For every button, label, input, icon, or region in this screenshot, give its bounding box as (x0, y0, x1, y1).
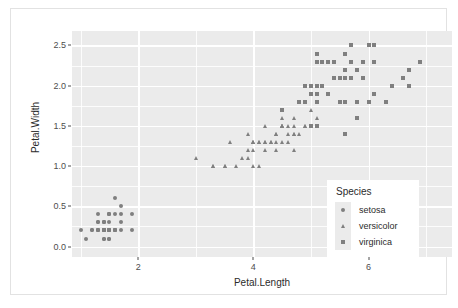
data-point-virginica (384, 100, 388, 104)
data-point-setosa (84, 237, 88, 241)
data-point-versicolor (263, 140, 267, 144)
data-point-setosa (107, 237, 111, 241)
data-point-virginica (372, 92, 376, 96)
data-point-setosa (107, 228, 111, 232)
data-point-virginica (315, 84, 319, 88)
data-point-versicolor (286, 132, 290, 136)
data-point-setosa (107, 212, 111, 216)
data-point-versicolor (240, 156, 244, 160)
data-point-setosa (102, 237, 106, 241)
legend-label: virginica (359, 237, 392, 247)
legend-entry-virginica[interactable]: virginica (335, 234, 411, 250)
data-point-versicolor (228, 140, 232, 144)
data-point-setosa (119, 228, 123, 232)
data-point-virginica (355, 68, 359, 72)
data-point-virginica (326, 92, 330, 96)
y-tick-mark (68, 206, 71, 207)
data-point-virginica (343, 52, 347, 56)
gridline-major-y (72, 45, 452, 46)
y-tick-mark (68, 166, 71, 167)
data-point-versicolor (223, 164, 227, 168)
data-point-virginica (280, 108, 284, 112)
x-tick-label: 4 (251, 262, 256, 272)
data-point-virginica (343, 100, 347, 104)
gridline-minor-y (72, 146, 452, 147)
data-point-virginica (401, 76, 405, 80)
data-point-setosa (113, 228, 117, 232)
data-point-versicolor (274, 132, 278, 136)
data-point-virginica (407, 68, 411, 72)
data-point-versicolor (194, 156, 198, 160)
data-point-virginica (303, 100, 307, 104)
data-point-virginica (315, 52, 319, 56)
data-point-virginica (309, 92, 313, 96)
data-point-versicolor (280, 140, 284, 144)
data-point-virginica (372, 43, 376, 47)
legend-entry-versicolor[interactable]: versicolor (335, 218, 411, 234)
y-axis-title: Petal.Width (30, 48, 41, 208)
data-point-virginica (320, 84, 324, 88)
data-point-versicolor (274, 148, 278, 152)
data-point-setosa (119, 220, 123, 224)
gridline-minor-y (72, 66, 452, 67)
x-tick-label: 2 (136, 262, 141, 272)
data-point-setosa (96, 228, 100, 232)
y-tick-mark (68, 45, 71, 46)
data-point-virginica (418, 60, 422, 64)
data-point-virginica (355, 100, 359, 104)
data-point-setosa (96, 212, 100, 216)
data-point-versicolor (246, 156, 250, 160)
data-point-versicolor (292, 116, 296, 120)
data-point-versicolor (246, 132, 250, 136)
data-point-virginica (343, 76, 347, 80)
legend-key-circle-icon (335, 202, 351, 218)
legend-key-square-icon (335, 234, 351, 250)
gridline-minor-y (72, 106, 452, 107)
data-point-setosa (107, 220, 111, 224)
legend-entry-setosa[interactable]: setosa (335, 202, 411, 218)
data-point-versicolor (315, 116, 319, 120)
scatter-plot-figure: 0.00.51.01.52.02.5 246 Petal.Length Peta… (0, 0, 458, 308)
data-point-versicolor (292, 148, 296, 152)
data-point-virginica (343, 132, 347, 136)
data-point-versicolor (246, 148, 250, 152)
data-point-versicolor (303, 124, 307, 128)
data-point-setosa (113, 196, 117, 200)
data-point-virginica (361, 76, 365, 80)
data-point-versicolor (292, 124, 296, 128)
x-tick-mark (138, 257, 139, 260)
data-point-setosa (102, 220, 106, 224)
data-point-versicolor (280, 116, 284, 120)
data-point-virginica (315, 100, 319, 104)
data-point-versicolor (286, 124, 290, 128)
legend-key-triangle-icon (335, 218, 351, 234)
data-point-virginica (303, 84, 307, 88)
data-point-virginica (349, 76, 353, 80)
data-point-virginica (367, 43, 371, 47)
x-axis-title: Petal.Length (72, 277, 452, 288)
data-point-versicolor (211, 164, 215, 168)
data-point-virginica (372, 60, 376, 64)
y-tick-mark (68, 125, 71, 126)
data-point-virginica (320, 60, 324, 64)
data-point-versicolor (234, 164, 238, 168)
figure-frame: 0.00.51.01.52.02.5 246 Petal.Length Peta… (10, 8, 447, 295)
data-point-virginica (297, 100, 301, 104)
data-point-virginica (309, 84, 313, 88)
data-point-setosa (113, 212, 117, 216)
data-point-versicolor (251, 140, 255, 144)
data-point-versicolor (251, 148, 255, 152)
data-point-setosa (119, 212, 123, 216)
data-point-setosa (130, 212, 134, 216)
data-point-versicolor (269, 140, 273, 144)
data-point-versicolor (309, 108, 313, 112)
data-point-versicolor (286, 140, 290, 144)
data-point-virginica (338, 100, 342, 104)
circle-marker-icon (341, 208, 345, 212)
data-point-virginica (309, 124, 313, 128)
y-tick-label: 0.0 (11, 242, 66, 252)
data-point-setosa (119, 204, 123, 208)
data-point-versicolor (251, 164, 255, 168)
y-tick-mark (68, 246, 71, 247)
data-point-virginica (367, 100, 371, 104)
